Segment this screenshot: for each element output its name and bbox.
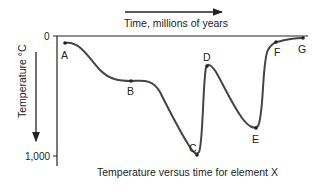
label-c: C [189,142,197,154]
label-b: B [127,85,134,97]
temperature-axis-label: Temperature °C [16,44,28,118]
point-f [274,40,278,44]
label-g: G [298,43,306,55]
label-e: E [252,133,259,145]
label-a: A [61,49,68,61]
tick-zero-label: 0 [44,31,50,42]
point-b [129,79,133,83]
label-d: D [203,51,211,63]
point-a [63,41,67,45]
temperature-time-diagram: Time, millions of years 0 1,000 Temperat… [0,0,332,192]
chart-caption: Temperature versus time for element X [97,166,278,178]
tick-thousand-label: 1,000 [25,151,50,162]
point-e [254,126,258,130]
point-g [301,36,305,40]
temperature-curve [65,38,303,154]
point-d [205,64,209,68]
label-f: F [274,46,280,58]
time-axis-label: Time, millions of years [124,17,228,29]
